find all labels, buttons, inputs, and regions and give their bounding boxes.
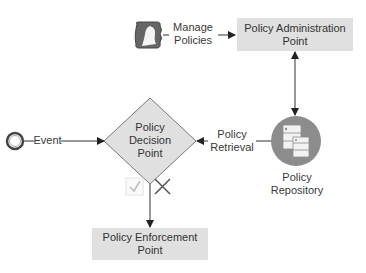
pep-label-line1: Policy Enforcement (103, 231, 198, 244)
check-icon[interactable] (126, 178, 143, 195)
x-icon[interactable] (155, 179, 170, 194)
repository-label-line1: Policy (266, 171, 328, 184)
pep-node[interactable]: Policy Enforcement Point (92, 228, 208, 260)
repository-label-line2: Repository (266, 184, 328, 197)
repository-node[interactable] (271, 116, 321, 166)
manage-label-line2: Policies (166, 34, 220, 47)
start-event[interactable] (7, 133, 23, 149)
pdp-label: Policy Decision Point (118, 121, 182, 160)
manage-label-line1: Manage (166, 21, 220, 34)
pdp-label-line3: Point (118, 147, 182, 160)
manage-policies-label: Manage Policies (166, 21, 220, 47)
pap-label-line1: Policy Administration (244, 22, 346, 35)
repository-label: Policy Repository (266, 171, 328, 197)
pap-node[interactable]: Policy Administration Point (237, 18, 353, 51)
retrieval-label-line2: Retrieval (206, 141, 258, 154)
event-label: Event (33, 134, 62, 147)
pap-label-line2: Point (244, 35, 346, 48)
user-icon[interactable] (135, 22, 161, 48)
pdp-label-line1: Policy (118, 121, 182, 134)
retrieval-label-line1: Policy (206, 128, 258, 141)
pdp-label-line2: Decision (118, 134, 182, 147)
policy-retrieval-label: Policy Retrieval (206, 128, 258, 154)
pep-label-line2: Point (103, 244, 198, 257)
